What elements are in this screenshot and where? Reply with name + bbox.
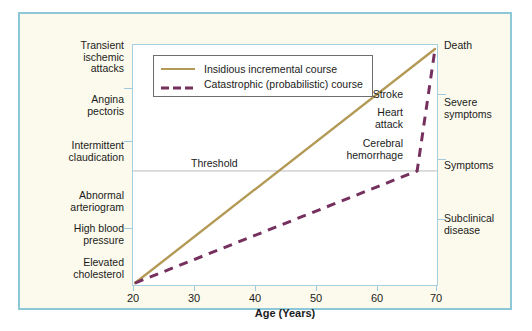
legend-item-insidious-incremental: Insidious incremental course [161,61,363,76]
left-label-transient-ischemic-attacks: Transient ischemic attacks [81,40,124,75]
x-tick-20 [133,286,134,291]
left-axis-label-group: Transient ischemic attacks Angina pector… [34,14,124,312]
legend-swatch-dashed-line-icon [161,79,195,89]
x-tick-40 [255,286,256,291]
chart-panel: Transient ischemic attacks Angina pector… [18,12,512,310]
x-tick-label-40: 40 [235,292,275,304]
left-label-intermittent-claudication: Intermittent claudication [69,140,124,163]
legend-label-catastrophic: Catastrophic (probabilistic) course [204,78,363,90]
x-tick-label-20: 20 [113,292,153,304]
x-tick-label-50: 50 [296,292,336,304]
x-tick-30 [194,286,195,291]
legend-swatch-solid-line-icon [161,64,195,74]
legend-label-insidious-incremental: Insidious incremental course [204,63,337,75]
left-tick-claudication [124,141,132,142]
right-axis-label-group: Death Severe symptoms Symptoms Subclinic… [444,14,522,312]
threshold-label: Threshold [191,157,238,169]
right-tick-subclinical-disease [438,219,446,220]
right-label-severe-symptoms: Severe symptoms [444,97,492,120]
right-tick-severe-symptoms [438,94,446,95]
left-tick-angina [124,88,132,89]
annotation-cerebral-hemorrhage: Cerebral hemorrhage [293,138,403,161]
left-label-angina-pectoris: Angina pectoris [87,94,124,117]
right-label-subclinical-disease: Subclinical disease [444,213,494,236]
right-tick-symptoms [438,159,446,160]
right-label-symptoms: Symptoms [444,160,494,172]
x-tick-60 [377,286,378,291]
legend-item-catastrophic: Catastrophic (probabilistic) course [161,76,363,91]
x-tick-label-60: 60 [357,292,397,304]
left-tick-high-blood-pressure [124,228,132,229]
x-tick-70 [436,286,437,291]
x-tick-50 [316,286,317,291]
right-label-death: Death [444,40,472,52]
left-label-elevated-cholesterol: Elevated cholesterol [73,257,124,280]
x-axis-title: Age (Years) [132,307,438,319]
chart-legend: Insidious incremental course Catastrophi… [153,55,373,97]
x-tick-label-70: 70 [416,292,456,304]
dashed-line-icon [161,83,195,93]
x-axis-tick-group: 20 30 40 50 60 70 [132,286,438,306]
x-tick-label-30: 30 [174,292,214,304]
annotation-heart-attack: Heart attack [323,107,403,130]
left-label-high-blood-pressure: High blood pressure [74,223,124,246]
left-label-abnormal-arteriogram: Abnormal arteriogram [70,190,124,213]
figure-root: Transient ischemic attacks Angina pector… [0,0,532,331]
